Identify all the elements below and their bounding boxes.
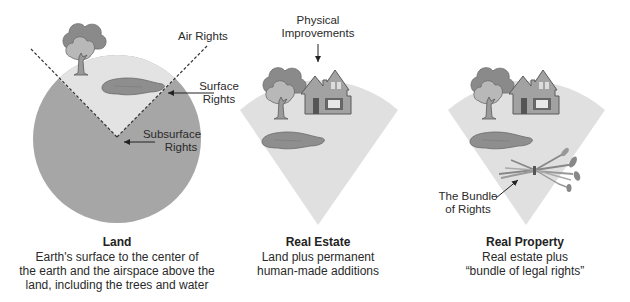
subsurface-rights-line-1: Subsurface <box>142 128 202 141</box>
surface-rights-label: Surface Rights <box>193 80 245 106</box>
real-estate-title: Real Estate <box>213 235 423 250</box>
house-icon <box>509 70 559 114</box>
real-estate-illustration <box>240 44 398 225</box>
physical-improvements-line-2: Improvements <box>278 27 358 40</box>
surface-rights-line-1: Surface <box>193 80 245 93</box>
physical-improvements-line-1: Physical <box>278 14 358 27</box>
land-description-line-2: the earth and the airspace above the <box>12 264 222 278</box>
real-estate-caption: Real Estate Land plus permanent human-ma… <box>213 235 423 278</box>
land-title: Land <box>12 235 222 250</box>
surface-rights-line-2: Rights <box>193 93 245 106</box>
physical-improvements-label: Physical Improvements <box>278 14 358 40</box>
land-caption: Land Earth's surface to the center of th… <box>12 235 222 292</box>
real-property-title: Real Property <box>420 235 630 250</box>
land-description-line-1: Earth's surface to the center of <box>12 250 222 264</box>
real-property-caption: Real Property Real estate plus “bundle o… <box>420 235 630 278</box>
subsurface-rights-line-2: Rights <box>142 141 202 154</box>
air-rights-label: Air Rights <box>178 30 228 43</box>
real-property-description-line-1: Real estate plus <box>420 250 630 264</box>
bundle-of-rights-line-2: of Rights <box>436 203 500 216</box>
real-property-description-line-2: “bundle of legal rights” <box>420 264 630 278</box>
subsurface-rights-label: Subsurface Rights <box>142 128 202 154</box>
real-estate-description-line-2: human-made additions <box>213 264 423 278</box>
bundle-of-rights-line-1: The Bundle <box>436 190 500 203</box>
land-illustration <box>30 24 214 223</box>
real-estate-description-line-1: Land plus permanent <box>213 250 423 264</box>
land-description-line-3: land, including the trees and water <box>12 278 222 292</box>
air-rights-text: Air Rights <box>178 30 228 42</box>
bundle-of-rights-label: The Bundle of Rights <box>436 190 500 216</box>
house-icon <box>301 70 351 114</box>
